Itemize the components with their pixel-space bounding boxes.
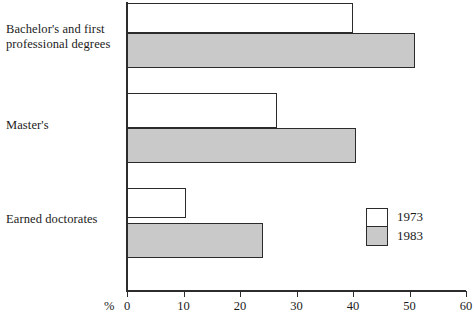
x-axis-tick-3 [297, 291, 298, 297]
category-label-doctorates: Earned doctorates [6, 212, 124, 227]
legend-label-1973: 1973 [397, 209, 423, 225]
category-label-bachelors-line1: Bachelor's and first [6, 22, 124, 37]
category-label-bachelors: Bachelor's and first professional degree… [6, 22, 124, 51]
x-axis-tick-4 [353, 291, 354, 297]
bar-masters-1973 [127, 93, 277, 128]
bar-masters-1983 [127, 128, 356, 163]
x-axis-tick-0 [127, 291, 128, 297]
x-axis-tick-label-5: 50 [403, 299, 416, 313]
bar-doctorates-1983 [127, 223, 263, 258]
category-label-bachelors-line2: professional degrees [6, 37, 124, 52]
bar-doctorates-1973 [127, 188, 186, 218]
x-axis-tick-label-4: 40 [347, 299, 360, 313]
bar-bachelors-1983 [127, 33, 415, 68]
x-axis-tick-1 [184, 291, 185, 297]
bar-chart: Bachelor's and first professional degree… [0, 0, 474, 325]
x-axis-tick-5 [410, 291, 411, 297]
x-axis-tick-label-0: 0 [124, 299, 130, 313]
x-axis-tick-label-6: 60 [460, 299, 473, 313]
x-axis-tick-2 [240, 291, 241, 297]
legend-swatch-1973 [366, 208, 388, 227]
bar-bachelors-1973 [127, 3, 353, 33]
x-axis-tick-label-1: 10 [177, 299, 190, 313]
x-axis-tick-label-2: 20 [234, 299, 247, 313]
legend-swatch-1983 [366, 227, 388, 246]
category-label-masters: Master's [6, 118, 124, 133]
x-axis-percent-label: % [104, 299, 114, 313]
x-axis-tick-6 [466, 291, 467, 297]
x-axis-tick-label-3: 30 [290, 299, 303, 313]
legend-label-1983: 1983 [397, 228, 423, 244]
